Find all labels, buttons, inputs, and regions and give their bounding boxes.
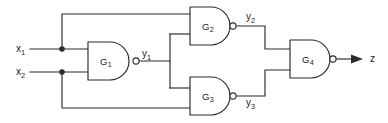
input-label-x1: x1 [16,43,25,57]
signal-label-z: z [370,53,375,64]
signal-label-y1: y1 [142,48,151,62]
inversion-bubble-icon-g4 [330,56,336,62]
junction-dot-x1 [59,46,65,52]
wire-x2-branch-to-g3 [62,72,190,108]
logic-circuit-diagram: x1 x2 G1 G2 G3 G4 y1 y2 y3 z [0,0,388,123]
input-label-x2: x2 [16,66,25,80]
circuit-canvas: x1 x2 G1 G2 G3 G4 y1 y2 y3 z [0,0,388,123]
inversion-bubble-icon-g3 [230,93,236,99]
junction-dot-x2 [59,69,65,75]
wire-y2-to-g4 [236,26,290,49]
signal-label-y2: y2 [246,11,255,25]
wire-x1-branch-to-g2 [62,14,190,49]
inversion-bubble-icon-g1 [133,58,139,64]
signal-label-y3: y3 [246,97,255,111]
inversion-bubble-icon-g2 [230,23,236,29]
wire-y3-to-g4 [236,70,290,96]
output-arrowhead-icon [351,54,363,63]
